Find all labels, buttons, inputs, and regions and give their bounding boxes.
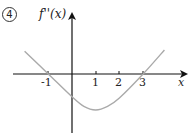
x-tick-label-neg1: -1 xyxy=(41,77,52,88)
y-axis-label: f''(x) xyxy=(39,8,66,20)
x-tick-label-3: 3 xyxy=(139,77,146,88)
x-axis-label: x xyxy=(178,77,184,88)
x-tick-label-1: 1 xyxy=(92,77,99,88)
x-tick-label-2: 2 xyxy=(115,77,122,88)
chart-canvas xyxy=(0,0,189,135)
